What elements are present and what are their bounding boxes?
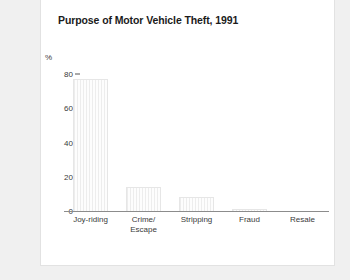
x-axis-tick-label: Joy-riding bbox=[64, 215, 117, 225]
x-axis-tick-label: Crime/Escape bbox=[117, 215, 170, 235]
chart-plot-area: % 020406080 Joy-ridingCrime/EscapeStripp… bbox=[41, 0, 336, 266]
x-axis-tick-label-line: Escape bbox=[117, 225, 170, 235]
bar-slot bbox=[276, 0, 329, 266]
x-axis-tick-label: Stripping bbox=[170, 215, 223, 225]
page-background: Purpose of Motor Vehicle Theft, 1991 % 0… bbox=[0, 0, 350, 280]
x-axis-tick-label-line: Resale bbox=[276, 215, 329, 225]
chart-card: Purpose of Motor Vehicle Theft, 1991 % 0… bbox=[40, 0, 335, 266]
bar[interactable] bbox=[232, 209, 267, 211]
x-axis-tick-label-line: Crime/ bbox=[117, 215, 170, 225]
bar-slot bbox=[64, 0, 117, 266]
bar[interactable] bbox=[126, 187, 161, 211]
x-axis-tick-label-line: Joy-riding bbox=[64, 215, 117, 225]
x-axis-tick-label: Fraud bbox=[223, 215, 276, 225]
y-axis-unit-label: % bbox=[45, 53, 52, 62]
x-axis-tick-label: Resale bbox=[276, 215, 329, 225]
bar-series bbox=[64, 0, 329, 266]
bar[interactable] bbox=[73, 79, 108, 211]
bar-slot bbox=[170, 0, 223, 266]
bar[interactable] bbox=[179, 197, 214, 211]
bar-slot bbox=[223, 0, 276, 266]
x-axis-tick-label-line: Fraud bbox=[223, 215, 276, 225]
x-axis-tick-label-line: Stripping bbox=[170, 215, 223, 225]
